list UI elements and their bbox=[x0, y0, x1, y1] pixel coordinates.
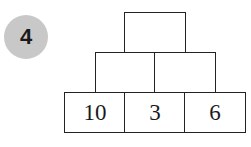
problem-number-badge: 4 bbox=[4, 15, 48, 59]
pyramid-bottom-cell-1: 10 bbox=[64, 92, 126, 133]
pyramid-top-cell[interactable] bbox=[124, 12, 186, 53]
pyramid-middle-cell-2[interactable] bbox=[154, 52, 216, 93]
pyramid-bottom-cell-3: 6 bbox=[184, 92, 246, 133]
pyramid-bottom-cell-2: 3 bbox=[124, 92, 186, 133]
pyramid-middle-cell-1[interactable] bbox=[95, 52, 156, 93]
